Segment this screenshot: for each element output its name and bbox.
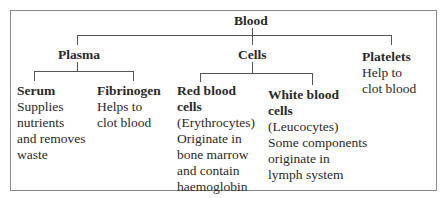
connector-level1-bar bbox=[77, 35, 392, 36]
node-cells: Cells bbox=[238, 47, 267, 63]
node-serum-desc-3: and removes bbox=[17, 131, 86, 147]
connector-cells-stem bbox=[252, 62, 253, 73]
node-red-blood-cells-label-2: cells bbox=[177, 99, 255, 115]
node-platelets-label: Platelets bbox=[362, 49, 416, 65]
node-white-blood-cells: White blood cells (Leucocytes) Some comp… bbox=[268, 87, 367, 183]
node-fibrinogen-desc-1: Helps to bbox=[97, 99, 161, 115]
node-white-blood-cells-desc-3: originate in bbox=[268, 151, 367, 167]
node-white-blood-cells-desc-2: Some components bbox=[268, 135, 367, 151]
node-serum-label: Serum bbox=[17, 83, 86, 99]
node-red-blood-cells: Red blood cells (Erythrocytes) Originate… bbox=[177, 83, 255, 195]
connector-fibrinogen-drop bbox=[133, 71, 134, 81]
connector-serum-drop bbox=[34, 71, 35, 81]
node-platelets: Platelets Help to clot blood bbox=[362, 49, 416, 97]
connector-platelets-drop bbox=[391, 35, 392, 45]
connector-plasma-drop bbox=[77, 35, 78, 45]
node-platelets-desc-1: Help to bbox=[362, 65, 416, 81]
connector-plasma-bar bbox=[34, 71, 134, 72]
node-plasma: Plasma bbox=[58, 47, 100, 63]
connector-cells-bar bbox=[200, 73, 313, 74]
node-red-blood-cells-label-1: Red blood bbox=[177, 83, 255, 99]
node-white-blood-cells-desc-4: lymph system bbox=[268, 167, 367, 183]
node-red-blood-cells-desc-3: bone marrow bbox=[177, 147, 255, 163]
connector-plasma-stem bbox=[77, 62, 78, 71]
node-blood-label: Blood bbox=[234, 13, 268, 28]
node-serum: Serum Supplies nutrients and removes was… bbox=[17, 83, 86, 163]
node-cells-label: Cells bbox=[238, 47, 267, 62]
node-white-blood-cells-desc-1: (Leucocytes) bbox=[268, 119, 367, 135]
connector-white-cells-drop bbox=[312, 73, 313, 85]
node-fibrinogen-label: Fibrinogen bbox=[97, 83, 161, 99]
node-plasma-label: Plasma bbox=[58, 47, 100, 62]
node-fibrinogen-desc-2: clot blood bbox=[97, 115, 161, 131]
node-serum-desc-1: Supplies bbox=[17, 99, 86, 115]
node-white-blood-cells-label-1: White blood bbox=[268, 87, 367, 103]
node-red-blood-cells-desc-4: and contain bbox=[177, 163, 255, 179]
node-red-blood-cells-desc-2: Originate in bbox=[177, 131, 255, 147]
node-serum-desc-4: waste bbox=[17, 147, 86, 163]
node-serum-desc-2: nutrients bbox=[17, 115, 86, 131]
node-platelets-desc-2: clot blood bbox=[362, 81, 416, 97]
node-fibrinogen: Fibrinogen Helps to clot blood bbox=[97, 83, 161, 131]
node-white-blood-cells-label-2: cells bbox=[268, 103, 367, 119]
node-blood: Blood bbox=[234, 13, 268, 29]
node-red-blood-cells-desc-1: (Erythrocytes) bbox=[177, 115, 255, 131]
connector-cells-drop bbox=[252, 35, 253, 45]
connector-red-cells-drop bbox=[200, 73, 201, 82]
node-red-blood-cells-desc-5: haemoglobin bbox=[177, 179, 255, 195]
